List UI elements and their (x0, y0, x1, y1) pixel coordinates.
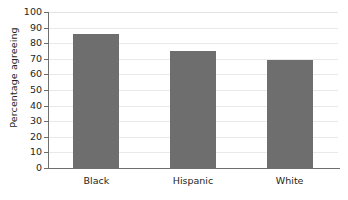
gridline (48, 12, 338, 13)
x-axis-category-label: Hispanic (145, 175, 242, 186)
bar-chart: Percentage agreeing 10090807060504030201… (0, 0, 348, 200)
x-axis-category-label: White (241, 175, 338, 186)
y-axis-tick-label: 0 (16, 163, 42, 173)
bar (73, 34, 119, 168)
y-axis-tick-label: 10 (16, 147, 42, 157)
y-axis-tick-label: 60 (16, 69, 42, 79)
x-axis-category-label: Black (48, 175, 145, 186)
bar (170, 51, 216, 168)
y-axis-tick-label: 30 (16, 116, 42, 126)
y-axis-tick-label: 90 (16, 23, 42, 33)
y-axis-tick-label: 20 (16, 132, 42, 142)
y-axis-tick-label: 50 (16, 85, 42, 95)
x-axis-line (48, 168, 340, 169)
y-axis-tick-label: 40 (16, 101, 42, 111)
y-axis-tick-label: 100 (16, 7, 42, 17)
gridline (48, 28, 338, 29)
bar (267, 60, 313, 168)
plot-area (48, 12, 338, 168)
y-axis-line (48, 12, 49, 169)
y-axis-tick-label: 70 (16, 54, 42, 64)
y-axis-tick-label: 80 (16, 38, 42, 48)
